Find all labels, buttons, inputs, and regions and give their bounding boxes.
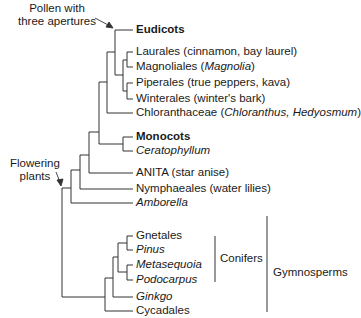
taxon-anita: ANITA (star anise) — [136, 166, 229, 179]
flowering-annotation: Flowering plants — [10, 157, 60, 183]
taxon-ceratophyllum: Ceratophyllum — [136, 144, 210, 157]
taxon-ginkgo: Ginkgo — [136, 290, 172, 303]
taxon-piperales: Piperales (true peppers, kava) — [136, 76, 290, 89]
taxon-pinus: Pinus — [136, 243, 165, 256]
taxon-nymphaeales: Nymphaeales (water lilies) — [136, 182, 271, 195]
flowering-line-1: Flowering — [10, 157, 60, 170]
taxon-cycadales: Cycadales — [136, 304, 190, 317]
taxon-magnoliales: Magnoliales (Magnolia) — [136, 60, 255, 73]
taxon-laurales: Laurales (cinnamon, bay laurel) — [136, 45, 297, 58]
pollen-line-2: three apertures — [18, 15, 96, 28]
conifers-label: Conifers — [220, 252, 263, 265]
flowering-line-2: plants — [10, 170, 60, 183]
pollen-annotation: Pollen with three apertures — [18, 2, 96, 28]
taxon-amborella: Amborella — [136, 196, 188, 209]
taxon-winterales: Winterales (winter's bark) — [136, 92, 265, 105]
gymnosperms-label: Gymnosperms — [273, 266, 348, 279]
pollen-line-1: Pollen with — [18, 2, 96, 15]
taxon-metasequoia: Metasequoia — [136, 258, 202, 271]
taxon-podocarpus: Podocarpus — [136, 273, 197, 286]
taxon-gnetales: Gnetales — [136, 229, 182, 242]
taxon-monocots: Monocots — [136, 130, 190, 143]
taxon-chloranthaceae: Chloranthaceae (Chloranthus, Hedyosmum) — [136, 106, 361, 119]
taxon-eudicots: Eudicots — [136, 23, 185, 36]
